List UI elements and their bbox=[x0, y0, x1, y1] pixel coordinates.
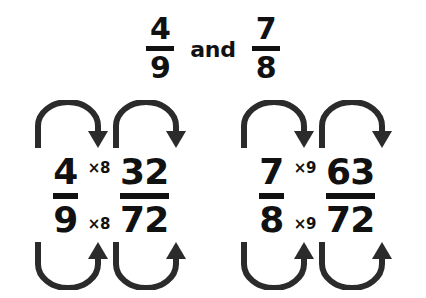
header-fraction-a: 4 9 bbox=[146, 14, 174, 83]
multiplier-denominator-left: ×8 bbox=[88, 215, 110, 233]
header-fraction-b-numerator: 7 bbox=[256, 14, 276, 44]
result-fraction-right-denominator: 72 bbox=[326, 202, 375, 238]
source-fraction-right-denominator: 8 bbox=[259, 202, 283, 238]
result-fraction-left-denominator: 72 bbox=[120, 202, 169, 238]
equation-row-right: 7 8 ×9 ×9 63 72 bbox=[222, 142, 412, 250]
multiplier-numerator-left: ×8 bbox=[88, 159, 110, 177]
result-fraction-left-numerator: 32 bbox=[120, 154, 169, 190]
multiplier-denominator-right: ×9 bbox=[294, 215, 316, 233]
equivalence-diagram-right: 7 8 ×9 ×9 63 72 bbox=[222, 100, 412, 290]
result-fraction-right: 63 72 bbox=[326, 154, 375, 238]
source-fraction-right-numerator: 7 bbox=[259, 154, 283, 190]
equivalence-diagram-left: 4 9 ×8 ×8 32 72 bbox=[16, 100, 206, 290]
header-conjunction: and bbox=[190, 37, 236, 62]
header-fraction-a-denominator: 9 bbox=[150, 53, 170, 83]
equation-row-left: 4 9 ×8 ×8 32 72 bbox=[16, 142, 206, 250]
source-fraction-left-numerator: 4 bbox=[53, 154, 77, 190]
multipliers-right: ×9 ×9 bbox=[294, 153, 316, 239]
multiplier-numerator-right: ×9 bbox=[294, 159, 316, 177]
arrows-top-left-group bbox=[16, 100, 206, 148]
header-expression: 4 9 and 7 8 bbox=[0, 12, 426, 84]
multipliers-left: ×8 ×8 bbox=[88, 153, 110, 239]
result-fraction-left: 32 72 bbox=[120, 154, 169, 238]
header-fraction-b-denominator: 8 bbox=[256, 53, 276, 83]
source-fraction-left: 4 9 bbox=[53, 154, 77, 238]
arrows-top-right-group bbox=[222, 100, 412, 148]
source-fraction-left-denominator: 9 bbox=[53, 202, 77, 238]
source-fraction-right: 7 8 bbox=[259, 154, 283, 238]
header-fraction-b: 7 8 bbox=[252, 14, 280, 83]
result-fraction-right-numerator: 63 bbox=[326, 154, 375, 190]
header-fraction-a-numerator: 4 bbox=[150, 14, 170, 44]
